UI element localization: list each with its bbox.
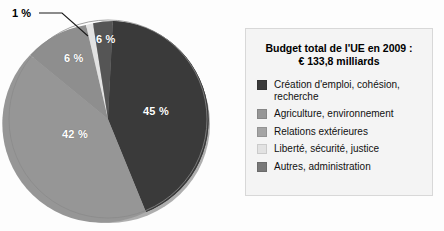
legend-swatch-icon-agriculture (257, 109, 267, 119)
legend-swatch-icon-liberte-securite-justice (257, 144, 267, 154)
legend-label-autres-administration: Autres, administration (274, 161, 371, 173)
legend-title-line-1: Budget total de l'UE en 2009 : (265, 42, 412, 54)
legend-label-agriculture: Agriculture, environnement (274, 108, 394, 120)
pie-label-creation-emploi: 45 % (143, 105, 169, 117)
legend-list: Création d'emploi, cohésion, recherche A… (257, 79, 432, 172)
legend-swatch-icon-relations-exterieures (257, 127, 267, 137)
legend-swatch-icon-autres-administration (257, 162, 267, 172)
pie-chart-area: 45 % 42 % 6 % 1 % 6 % (0, 0, 232, 231)
legend-item-autres-administration[interactable]: Autres, administration (257, 161, 432, 173)
legend-item-agriculture[interactable]: Agriculture, environnement (257, 108, 432, 120)
pie-chart-figure: 45 % 42 % 6 % 1 % 6 % Budget total de l'… (0, 0, 444, 231)
pie-label-autres-administration: 6 % (96, 33, 116, 45)
pie-label-relations-exterieures: 6 % (64, 52, 84, 64)
legend-title: Budget total de l'UE en 2009 : € 133,8 m… (256, 42, 422, 68)
pie-label-liberte-securite-justice: 1 % (12, 7, 31, 19)
legend-panel: Budget total de l'UE en 2009 : € 133,8 m… (245, 28, 433, 196)
legend-title-line-2: € 133,8 milliards (256, 55, 422, 68)
legend-item-creation-emploi[interactable]: Création d'emploi, cohésion, recherche (257, 79, 432, 102)
pie-chart-svg (0, 0, 232, 231)
legend-item-relations-exterieures[interactable]: Relations extérieures (257, 126, 432, 138)
legend-swatch-icon-creation-emploi (257, 80, 267, 90)
legend-label-creation-emploi: Création d'emploi, cohésion, recherche (274, 79, 419, 102)
legend-item-liberte-securite-justice[interactable]: Liberté, sécurité, justice (257, 143, 432, 155)
legend-label-liberte-securite-justice: Liberté, sécurité, justice (274, 143, 379, 155)
pie-label-agriculture: 42 % (62, 128, 88, 140)
legend-label-relations-exterieures: Relations extérieures (274, 126, 368, 138)
